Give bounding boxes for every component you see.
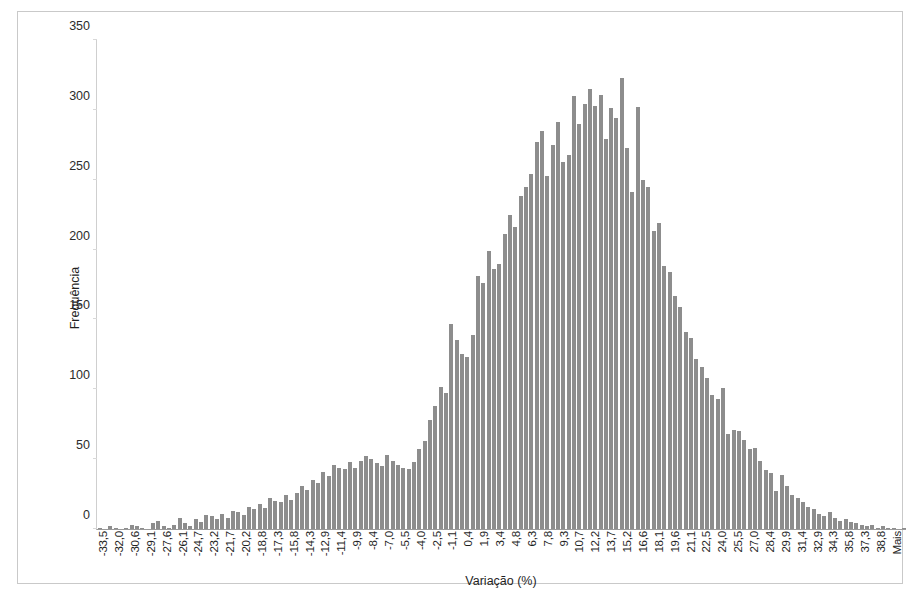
bar-rect — [385, 455, 389, 529]
bar-rect — [98, 528, 102, 529]
bar-rect — [806, 507, 810, 529]
bar-rect — [204, 515, 208, 529]
x-axis-tick-label: 4,8 — [511, 531, 523, 546]
bar-rect — [508, 215, 512, 529]
x-axis-tick-label: 12,2 — [590, 531, 602, 553]
x-axis-tick-label: 7,8 — [543, 531, 555, 546]
bar-rect — [684, 332, 688, 529]
bar-rect — [812, 509, 816, 529]
x-axis-tick-label: -2,5 — [432, 531, 444, 550]
y-axis-tick-label: 0 — [83, 508, 90, 522]
bar-rect — [359, 461, 363, 529]
bar-rect — [284, 495, 288, 529]
bar-rect — [588, 89, 592, 529]
bar-rect — [609, 108, 613, 529]
x-axis-tick-label: -15,8 — [289, 531, 301, 556]
bar-rect — [860, 525, 864, 529]
bar-rect — [652, 231, 656, 529]
bar-rect — [247, 507, 251, 529]
x-axis-tick-label: -11,4 — [336, 531, 348, 555]
bar-rect — [172, 525, 176, 529]
bar-rect — [156, 521, 160, 529]
x-axis-tick-label: 15,2 — [622, 531, 634, 553]
bar-rect — [412, 462, 416, 529]
bar-rect — [886, 528, 890, 529]
x-axis-tick-label: 27,0 — [749, 531, 761, 553]
x-axis-tick-label: -30,6 — [130, 531, 142, 556]
bar-rect — [817, 514, 821, 529]
bar-rect — [790, 495, 794, 529]
x-axis-tick-label: -29,1 — [146, 531, 158, 556]
bar-rect — [321, 472, 325, 529]
bar-rect — [705, 378, 709, 529]
bar-rect — [753, 448, 757, 529]
bar-rect — [471, 335, 475, 529]
x-axis-tick-label: 3,4 — [495, 531, 507, 546]
bar-rect — [545, 176, 549, 529]
bar-rect — [577, 124, 581, 529]
x-axis-tick-label: -23,2 — [209, 531, 221, 556]
bar-rect — [428, 420, 432, 529]
bar-rect — [513, 227, 517, 529]
x-axis-tick-label: -9,9 — [352, 531, 364, 550]
x-axis-tick-label: 34,3 — [828, 531, 840, 553]
y-axis-tick-label: 200 — [69, 229, 90, 243]
bar-rect — [503, 234, 507, 529]
y-axis-tick-label: 50 — [76, 438, 90, 452]
bar-rect — [625, 148, 629, 529]
bar-rect — [279, 502, 283, 529]
screenshot-root: Frequência 050100150200250300350 -33,5-3… — [0, 0, 920, 599]
bar-rect — [662, 266, 666, 529]
bar-rect — [455, 340, 459, 529]
bar-rect — [369, 459, 373, 529]
bar-rect — [551, 145, 555, 529]
x-axis-title: Variação (%) — [96, 574, 906, 588]
bar-rect — [561, 162, 565, 529]
bar-rect — [646, 187, 650, 529]
bar-rect — [833, 518, 837, 529]
bar-rect — [796, 498, 800, 529]
x-axis-tick-label: 38,8 — [876, 531, 888, 553]
bar-series — [97, 40, 906, 529]
bar-rect — [567, 155, 571, 529]
bar-rect — [801, 502, 805, 529]
bar-rect — [252, 509, 256, 529]
bar-rect — [732, 430, 736, 529]
y-axis-tick-label: 150 — [69, 298, 90, 312]
bar-rect — [226, 518, 230, 529]
bar-rect — [295, 493, 299, 529]
bar-rect — [689, 338, 693, 529]
plot-area: 050100150200250300350 — [96, 40, 906, 530]
bar-rect — [353, 468, 357, 529]
bar-rect — [785, 486, 789, 529]
bar-rect — [199, 522, 203, 529]
bar-rect — [870, 525, 874, 529]
bar-rect — [902, 528, 906, 529]
bar-rect — [167, 528, 171, 529]
x-axis-tick-label: 1,9 — [479, 531, 491, 546]
bar-rect — [183, 523, 187, 529]
x-axis-tick-label: -17,3 — [273, 531, 285, 556]
bar-rect — [535, 142, 539, 529]
bar-rect — [343, 469, 347, 529]
bar-rect — [449, 324, 453, 529]
x-axis-tick-label: -1,1 — [447, 531, 459, 550]
bar-rect — [780, 475, 784, 529]
x-axis-tick-label: 18,1 — [654, 531, 666, 553]
bar-rect — [726, 434, 730, 529]
x-axis-tick-label: 21,1 — [686, 531, 698, 553]
bar-rect — [268, 498, 272, 529]
x-axis-tick-label: -5,5 — [400, 531, 412, 550]
x-axis-tick-label: 37,3 — [860, 531, 872, 553]
bar-rect — [604, 139, 608, 529]
bar-rect — [721, 388, 725, 529]
bar-rect — [519, 196, 523, 529]
bar-rect — [774, 491, 778, 529]
x-axis-tick-label: 24,0 — [717, 531, 729, 553]
bar-rect — [678, 307, 682, 529]
bar-rect — [694, 359, 698, 529]
y-axis-tick-label: 100 — [69, 368, 90, 382]
bar-rect — [737, 431, 741, 529]
y-axis-tick-label: 250 — [69, 159, 90, 173]
bar-rect — [487, 251, 491, 529]
